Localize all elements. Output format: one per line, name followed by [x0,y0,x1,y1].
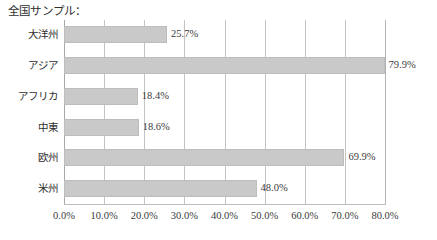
bar-value-label: 25.7% [171,25,198,43]
x-tick-label: 30.0% [171,208,198,224]
axis-baseline [64,204,386,205]
bar [64,149,344,166]
bar-value-label: 69.9% [348,148,375,166]
category-label: 欧州 [0,149,58,167]
category-label: 大洋州 [0,26,58,44]
bar-value-label: 18.6% [143,118,170,136]
bar-row: 79.9% [64,51,385,82]
category-axis: 大洋州アジアアフリカ中東欧州米州 [0,20,58,205]
category-label: アフリカ [0,88,58,106]
x-tick-label: 0.0% [53,208,75,224]
x-tick-label: 60.0% [291,208,318,224]
gridline-80.0% [385,20,386,205]
category-label: アジア [0,57,58,75]
bar-chart: 全国サンプル： 大洋州アジアアフリカ中東欧州米州 25.7%79.9%18.4%… [0,0,437,240]
bar [64,119,139,136]
bar [64,57,385,74]
category-label: 中東 [0,119,58,137]
chart-title: 全国サンプル： [8,2,86,18]
bar-value-label: 48.0% [261,179,288,197]
bar-row: 18.6% [64,113,385,144]
bar-value-label: 18.4% [142,87,169,105]
bar-row: 18.4% [64,82,385,113]
x-tick-label: 10.0% [91,208,118,224]
bar-row: 69.9% [64,143,385,174]
x-axis-tick-labels: 0.0%10.0%20.0%30.0%40.0%50.0%60.0%70.0%8… [0,208,437,230]
bar-row: 25.7% [64,20,385,51]
plot-area: 25.7%79.9%18.4%18.6%69.9%48.0% [64,20,385,205]
x-tick-label: 40.0% [211,208,238,224]
bar-value-label: 79.9% [389,56,416,74]
x-tick-label: 70.0% [331,208,358,224]
bar-row: 48.0% [64,174,385,205]
x-tick-label: 80.0% [371,208,398,224]
x-tick-label: 50.0% [251,208,278,224]
bar [64,180,257,197]
x-tick-label: 20.0% [131,208,158,224]
category-label: 米州 [0,180,58,198]
bar [64,88,138,105]
bar [64,26,167,43]
